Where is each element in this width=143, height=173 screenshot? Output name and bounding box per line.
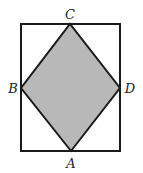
vertex-label-a: A (65, 156, 75, 171)
rhombus-in-rectangle-diagram: C B D A (0, 0, 143, 173)
vertex-label-b: B (7, 81, 18, 96)
vertex-label-c: C (65, 7, 75, 22)
vertex-label-d: D (124, 81, 136, 96)
shaded-rhombus-abcd (21, 24, 120, 151)
